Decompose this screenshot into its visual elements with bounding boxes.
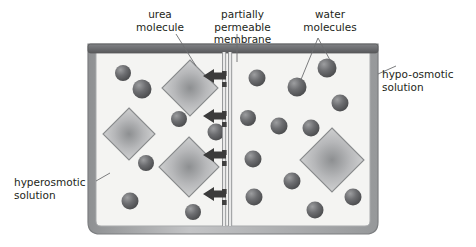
water-molecule bbox=[245, 151, 262, 168]
label-water-molecules: water molecules bbox=[297, 8, 363, 33]
water-molecule bbox=[133, 80, 152, 99]
water-molecule bbox=[246, 189, 263, 206]
water-molecule bbox=[208, 124, 225, 141]
label-partially-permeable-membrane: partially permeable membrane bbox=[193, 8, 292, 46]
water-molecule bbox=[284, 173, 301, 190]
label-hypo-osmotic-solution: hypo-osmotic solution bbox=[382, 68, 474, 93]
water-molecule bbox=[303, 120, 320, 137]
membrane-pore bbox=[222, 200, 227, 205]
water-molecule bbox=[240, 110, 256, 126]
water-molecule bbox=[288, 78, 307, 97]
water-molecule bbox=[171, 111, 187, 127]
water-molecule bbox=[122, 193, 139, 210]
membrane-pore bbox=[222, 122, 227, 127]
water-molecule bbox=[271, 118, 288, 135]
water-molecule bbox=[307, 202, 324, 219]
water-molecule bbox=[138, 155, 154, 171]
water-molecule bbox=[332, 95, 349, 112]
water-molecule bbox=[249, 70, 266, 87]
membrane-pore bbox=[222, 161, 227, 166]
membrane-pore bbox=[222, 82, 227, 87]
water-molecule bbox=[345, 189, 362, 206]
label-hyperosmotic-solution: hyperosmotic solution bbox=[14, 176, 102, 201]
water-molecule bbox=[185, 204, 201, 220]
label-urea-molecule: urea molecule bbox=[129, 8, 191, 33]
water-molecule bbox=[318, 59, 337, 78]
membrane-line-right bbox=[229, 47, 232, 228]
water-molecule bbox=[115, 65, 131, 81]
